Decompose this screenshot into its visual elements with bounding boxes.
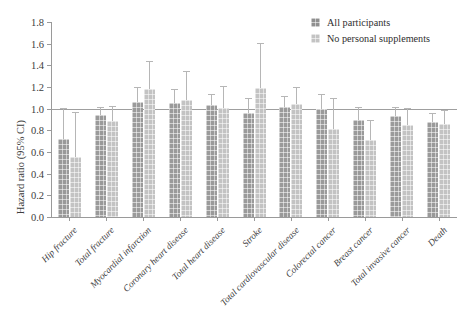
x-axis-category-label: Stroke: [240, 225, 264, 249]
bar-fill: [328, 129, 339, 217]
error-bar-cap: [60, 108, 67, 109]
bar-fill: [169, 103, 180, 217]
y-axis-tick: [47, 65, 51, 66]
error-bar-cap: [245, 98, 252, 99]
x-axis-tick: [291, 217, 292, 221]
y-axis-title: Hazard ratio (95% CI): [15, 120, 26, 214]
x-axis-category-label: Death: [425, 225, 448, 248]
bar-fill: [58, 139, 69, 217]
x-axis-tick: [254, 217, 255, 221]
error-bar-cap: [318, 94, 325, 95]
plot-area: Hazard ratio (95% CI) 0.00.20.40.60.81.0…: [51, 22, 457, 217]
error-bar-cap: [171, 89, 178, 90]
y-axis-tick-label: 1.4: [31, 60, 44, 71]
bar-fill: [291, 104, 302, 217]
bar: [243, 113, 254, 217]
bar-group: [427, 22, 450, 217]
bar: [218, 108, 229, 217]
y-axis-tick: [47, 87, 51, 88]
bar: [169, 103, 180, 217]
error-bar-cap: [220, 86, 227, 87]
bar: [427, 122, 438, 217]
bar: [390, 116, 401, 217]
bar: [255, 88, 266, 217]
bar-group: [390, 22, 413, 217]
x-axis-category-label: Coronary heart disease: [121, 225, 190, 294]
error-bar-cap: [109, 106, 116, 107]
error-bar-cap: [146, 61, 153, 62]
bar-fill: [402, 125, 413, 217]
bar: [279, 107, 290, 218]
bar: [365, 140, 376, 217]
bar-fill: [144, 89, 155, 217]
y-axis-tick: [47, 152, 51, 153]
y-axis-tick-label: 0.0: [31, 212, 44, 223]
bar-fill: [439, 124, 450, 217]
y-axis-line: [51, 22, 52, 217]
x-axis-tick: [328, 217, 329, 221]
error-bar-cap: [429, 113, 436, 114]
bar: [316, 109, 327, 217]
y-axis-tick-label: 0.4: [31, 168, 44, 179]
bar-group: [206, 22, 229, 217]
bar: [70, 157, 81, 217]
y-axis-tick: [47, 195, 51, 196]
x-axis-tick: [69, 217, 70, 221]
error-bar-cap: [134, 87, 141, 88]
x-axis-tick: [106, 217, 107, 221]
y-axis-tick-label: 1.8: [31, 17, 44, 28]
y-axis-tick: [47, 22, 51, 23]
y-axis-tick: [47, 130, 51, 131]
error-bar-cap: [330, 98, 337, 99]
error-bar-cap: [404, 108, 411, 109]
bar-fill: [353, 120, 364, 218]
error-bar-cap: [257, 43, 264, 44]
error-bar-cap: [208, 94, 215, 95]
bar: [95, 115, 106, 217]
bar: [328, 129, 339, 217]
bar-fill: [427, 122, 438, 217]
error-bar-cap: [97, 107, 104, 108]
error-bar-cap: [72, 112, 79, 113]
bar: [58, 139, 69, 217]
bar-group: [279, 22, 302, 217]
bar-fill: [316, 109, 327, 217]
error-bar-cap: [367, 120, 374, 121]
error-bar-cap: [281, 96, 288, 97]
bar-fill: [218, 108, 229, 217]
y-axis-tick-label: 0.2: [31, 190, 44, 201]
error-bar-cap: [441, 110, 448, 111]
error-bar-cap: [355, 107, 362, 108]
bar-fill: [390, 116, 401, 217]
y-axis-tick-label: 1.2: [31, 82, 44, 93]
y-axis-tick: [47, 174, 51, 175]
error-bar-cap: [293, 87, 300, 88]
bar-fill: [70, 157, 81, 217]
y-axis-tick: [47, 44, 51, 45]
bar-group: [95, 22, 118, 217]
bar-group: [353, 22, 376, 217]
bar: [291, 104, 302, 217]
bar-fill: [255, 88, 266, 217]
x-axis-tick: [365, 217, 366, 221]
legend-item-label: No personal supplements: [327, 33, 430, 44]
bar-group: [243, 22, 266, 217]
bar-fill: [95, 115, 106, 217]
legend-swatch-icon: [311, 18, 320, 27]
x-axis-tick: [439, 217, 440, 221]
bar: [144, 89, 155, 217]
bar-group: [169, 22, 192, 217]
error-bar-cap: [392, 107, 399, 108]
error-bar-cap: [183, 71, 190, 72]
bar: [206, 105, 217, 217]
chart-legend: All participants No personal supplements: [311, 17, 430, 49]
y-axis-tick-label: 1.0: [31, 103, 44, 114]
bar: [107, 121, 118, 217]
bar: [353, 120, 364, 218]
bar: [132, 102, 143, 217]
bar-fill: [132, 102, 143, 217]
y-axis-tick: [47, 109, 51, 110]
bar: [181, 100, 192, 217]
x-axis-tick: [402, 217, 403, 221]
bar: [402, 125, 413, 217]
